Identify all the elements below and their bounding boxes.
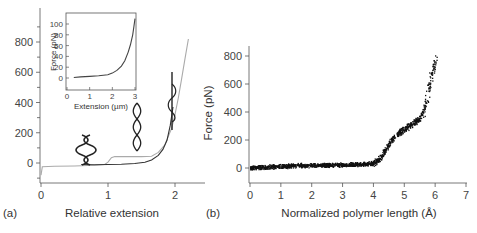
inset-x-tick-label: 0	[65, 92, 70, 101]
inset-x-tick-label: 1	[87, 92, 92, 101]
panel-b: 0200400600800 01234567 (b) Force (pN) No…	[202, 46, 469, 219]
y-tick-label: 800	[15, 36, 33, 48]
y-tick-label: 800	[224, 50, 242, 62]
x-tick-label: 7	[463, 189, 469, 201]
panel-a-y-ticks: 0200400600800	[15, 27, 40, 178]
x-tick-label: 5	[401, 189, 407, 201]
panel-b-scatter-points	[250, 55, 438, 170]
dna-helix-icon	[76, 135, 96, 165]
panel-a-x-ticks: 012	[38, 183, 178, 201]
x-tick-label: 1	[105, 189, 111, 201]
inset-x-label: Extension (µm)	[74, 102, 128, 111]
x-tick-label: 1	[278, 189, 284, 201]
figure: 0200400600800 012 020406080100 0123 Forc…	[0, 0, 477, 233]
x-tick-label: 0	[247, 189, 253, 201]
inset-y-label: Force (pN)	[49, 33, 58, 72]
y-tick-label: 600	[15, 66, 33, 78]
y-tick-label: 600	[224, 78, 242, 90]
stretched-dna-icon	[133, 103, 141, 151]
inset-y-tick-label: 0	[59, 74, 64, 83]
panel-a-label: (a)	[3, 207, 17, 219]
y-tick-label: 200	[224, 134, 242, 146]
panel-b-label: (b)	[206, 207, 220, 219]
x-tick-label: 2	[172, 189, 178, 201]
unwound-dna-icon	[168, 72, 176, 130]
inset-chart: 020406080100 0123 Force (pN) Extension (…	[49, 13, 138, 111]
x-tick-label: 4	[370, 189, 376, 201]
inset-x-tick-label: 3	[133, 92, 138, 101]
y-tick-label: 400	[15, 97, 33, 109]
y-tick-label: 200	[15, 127, 33, 139]
x-tick-label: 6	[432, 189, 438, 201]
x-tick-label: 2	[309, 189, 315, 201]
inset-frame	[66, 13, 136, 90]
x-tick-label: 3	[340, 189, 346, 201]
panel-b-x-label: Normalized polymer length (Å)	[281, 207, 436, 219]
panel-a: 0200400600800 012 020406080100 0123 Forc…	[3, 8, 205, 219]
panel-b-y-label: Force (pN)	[202, 85, 214, 140]
panel-b-y-ticks: 0200400600800	[224, 50, 249, 174]
y-tick-label: 0	[27, 157, 33, 169]
panel-a-x-label: Relative extension	[65, 207, 159, 219]
y-tick-label: 0	[236, 162, 242, 174]
inset-y-tick-label: 100	[50, 20, 64, 29]
x-tick-label: 0	[38, 189, 44, 201]
panel-b-x-ticks: 01234567	[247, 183, 469, 201]
y-tick-label: 400	[224, 106, 242, 118]
inset-x-tick-label: 2	[110, 92, 115, 101]
